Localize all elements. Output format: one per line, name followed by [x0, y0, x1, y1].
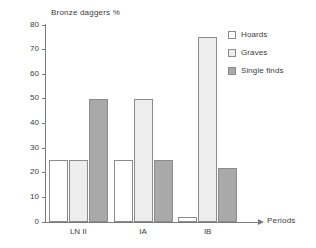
- bar-single-1: [154, 160, 173, 222]
- y-axis-tick-label: 50: [30, 93, 39, 102]
- bar-graves-0: [69, 160, 88, 222]
- bar-single-0: [89, 99, 108, 222]
- legend-label-graves: Graves: [241, 48, 267, 57]
- legend-item-hoards: Hoards: [228, 30, 284, 39]
- bar-graves-2: [198, 37, 217, 222]
- legend-label-hoards: Hoards: [241, 30, 267, 39]
- x-axis-group-label: LN II: [70, 227, 87, 236]
- bar-hoards-1: [114, 160, 133, 222]
- y-axis-tick-label: 80: [30, 20, 39, 29]
- y-axis-tick-label: 30: [30, 143, 39, 152]
- bar-single-2: [218, 168, 237, 222]
- chart-legend: HoardsGravesSingle finds: [228, 30, 284, 84]
- y-axis-tick-label: 40: [30, 118, 39, 127]
- legend-label-single: Single finds: [241, 66, 284, 75]
- legend-item-single: Single finds: [228, 66, 284, 75]
- bar-chart-figure: Bronze daggers % Periods 010203040506070…: [0, 0, 316, 248]
- y-axis-tick-label: 0: [35, 217, 39, 226]
- x-axis-line: [45, 222, 260, 223]
- bar-hoards-0: [49, 160, 68, 222]
- y-axis-tick-label: 20: [30, 167, 39, 176]
- plot-area: [46, 25, 240, 222]
- y-axis-tick-label: 70: [30, 44, 39, 53]
- legend-swatch-single: [228, 67, 236, 75]
- bar-graves-1: [134, 99, 153, 222]
- x-axis-title: Periods: [267, 216, 296, 225]
- x-axis-group-label: IA: [139, 227, 147, 236]
- legend-swatch-hoards: [228, 31, 236, 39]
- arrow-right-icon: [258, 219, 264, 225]
- legend-item-graves: Graves: [228, 48, 284, 57]
- x-axis-group-label: IB: [204, 227, 212, 236]
- y-axis-tick-label: 60: [30, 69, 39, 78]
- legend-swatch-graves: [228, 49, 236, 57]
- bar-hoards-2: [178, 217, 197, 222]
- chart-title: Bronze daggers %: [51, 8, 120, 17]
- y-axis-tick-label: 10: [30, 192, 39, 201]
